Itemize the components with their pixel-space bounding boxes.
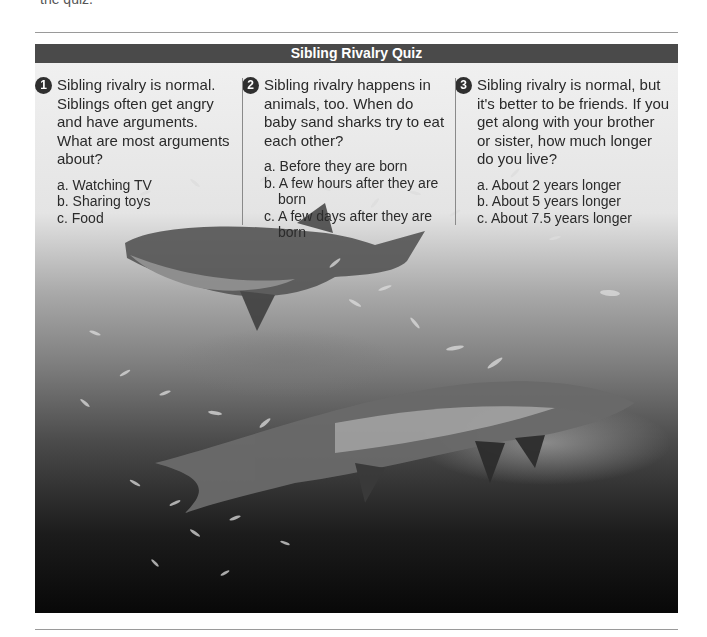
top-rule bbox=[35, 32, 678, 33]
answer-option: a. Before they are born bbox=[264, 158, 447, 175]
question-text: Sibling rivalry is normal, but it's bett… bbox=[477, 76, 670, 169]
cut-off-text: the quiz. bbox=[40, 0, 93, 7]
number-badge-3: 3 bbox=[455, 77, 472, 94]
question-2: 2 Sibling rivalry happens in animals, to… bbox=[242, 76, 455, 241]
answer-list: a. Before they are born b. A few hours a… bbox=[264, 158, 455, 241]
lower-shark bbox=[155, 381, 635, 513]
questions-row: 1 Sibling rivalry is normal. Siblings of… bbox=[35, 63, 678, 241]
question-3: 3 Sibling rivalry is normal, but it's be… bbox=[455, 76, 678, 241]
question-text: Sibling rivalry happens in animals, too.… bbox=[264, 76, 447, 150]
question-text: Sibling rivalry is normal. Siblings ofte… bbox=[57, 76, 234, 169]
answer-list: a. About 2 years longer b. About 5 years… bbox=[477, 177, 678, 227]
column-divider bbox=[455, 78, 456, 225]
answer-option: a. Watching TV bbox=[57, 177, 234, 194]
quiz-title: Sibling Rivalry Quiz bbox=[35, 44, 678, 63]
answer-option: b. A few hours after they are born bbox=[264, 175, 447, 208]
answer-option: a. About 2 years longer bbox=[477, 177, 670, 194]
quiz-box: Sibling Rivalry Quiz bbox=[35, 44, 678, 613]
answer-option: c. A few days after they are born bbox=[264, 208, 447, 241]
answer-option: b. About 5 years longer bbox=[477, 193, 670, 210]
number-badge-2: 2 bbox=[242, 77, 259, 94]
answer-option: c. Food bbox=[57, 210, 234, 227]
answer-option: b. Sharing toys bbox=[57, 193, 234, 210]
question-1: 1 Sibling rivalry is normal. Siblings of… bbox=[35, 76, 242, 241]
answer-list: a. Watching TV b. Sharing toys c. Food bbox=[57, 177, 242, 227]
number-badge-1: 1 bbox=[35, 77, 52, 94]
answer-option: c. About 7.5 years longer bbox=[477, 210, 670, 227]
bottom-rule bbox=[35, 629, 678, 630]
column-divider bbox=[242, 78, 243, 225]
